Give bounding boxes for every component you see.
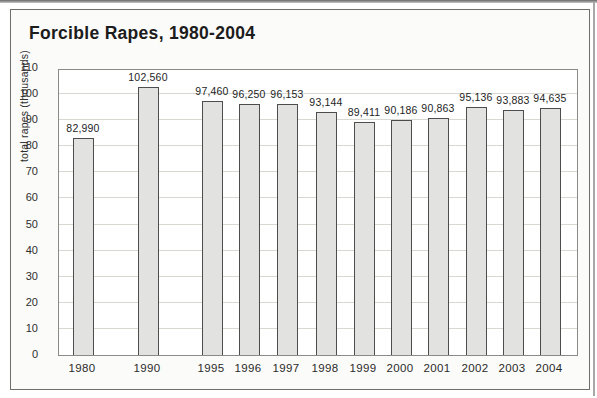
bar-value-label-1990: 102,560	[128, 71, 167, 83]
y-tick-label-70: 70	[14, 165, 38, 177]
bar-value-label-1997: 96,153	[270, 88, 303, 100]
x-tick-label-1990: 1990	[134, 362, 161, 374]
bar-value-label-1999: 89,411	[348, 106, 381, 118]
x-tick-label-2004: 2004	[536, 362, 563, 374]
bar-value-label-1980: 82,990	[66, 122, 99, 134]
bar-1995	[202, 101, 223, 355]
bar-2001	[428, 118, 449, 355]
bar-1996	[239, 104, 260, 355]
y-tick-label-0: 0	[14, 348, 38, 360]
bar-1997	[277, 104, 298, 355]
y-tick-label-20: 20	[14, 296, 38, 308]
x-tick-label-2002: 2002	[462, 362, 489, 374]
chart-panel: Forcible Rapes, 1980-2004 total rapes (t…	[10, 9, 590, 390]
y-tick-label-90: 90	[14, 113, 38, 125]
y-tick-label-110: 110	[14, 61, 38, 73]
y-tick-label-50: 50	[14, 218, 38, 230]
bar-value-label-1998: 93,144	[309, 96, 342, 108]
bar-1999	[354, 122, 375, 355]
bar-value-label-2000: 90,186	[384, 104, 417, 116]
bar-1990	[138, 87, 159, 355]
scan-top-edge-artifact	[0, 0, 597, 3]
y-tick-label-10: 10	[14, 322, 38, 334]
bar-value-label-2004: 94,635	[533, 92, 566, 104]
y-tick-label-40: 40	[14, 244, 38, 256]
y-tick-label-100: 100	[14, 87, 38, 99]
bar-2003	[503, 110, 524, 355]
plot-area: 82,990102,56097,46096,25096,15393,14489,…	[58, 69, 578, 356]
bar-1998	[316, 112, 337, 355]
bar-value-label-1996: 96,250	[232, 88, 265, 100]
bar-2000	[391, 120, 412, 355]
chart-title: Forcible Rapes, 1980-2004	[29, 23, 255, 44]
x-tick-label-1996: 1996	[235, 362, 262, 374]
scan-right-edge-artifact	[593, 2, 595, 396]
bar-value-label-1995: 97,460	[195, 85, 228, 97]
bar-value-label-2002: 95,136	[459, 91, 492, 103]
x-tick-label-1999: 1999	[350, 362, 377, 374]
x-tick-label-1997: 1997	[273, 362, 300, 374]
bar-value-label-2001: 90,863	[421, 102, 454, 114]
bar-1980	[73, 138, 94, 355]
x-tick-label-2003: 2003	[499, 362, 526, 374]
x-tick-label-2001: 2001	[424, 362, 451, 374]
y-tick-label-80: 80	[14, 139, 38, 151]
y-tick-label-30: 30	[14, 270, 38, 282]
bar-2004	[540, 108, 561, 355]
x-tick-label-1980: 1980	[69, 362, 96, 374]
x-tick-label-2000: 2000	[387, 362, 414, 374]
x-tick-label-1998: 1998	[312, 362, 339, 374]
y-tick-label-60: 60	[14, 191, 38, 203]
bar-value-label-2003: 93,883	[496, 94, 529, 106]
bar-2002	[466, 107, 487, 355]
x-tick-label-1995: 1995	[198, 362, 225, 374]
